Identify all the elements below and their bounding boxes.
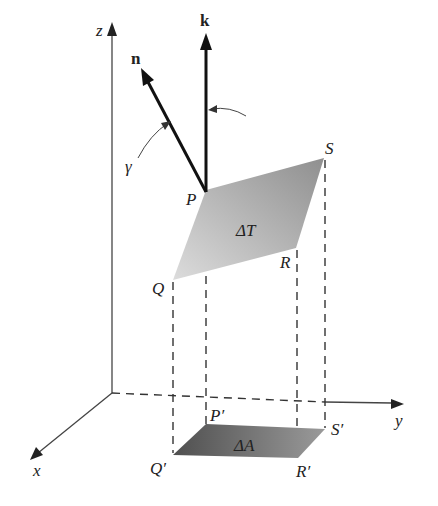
projection-label: ΔA <box>234 437 254 454</box>
y-axis-solid <box>325 402 392 403</box>
gamma-angle-label: γ <box>125 158 132 175</box>
k-arc-arrowhead <box>208 105 217 113</box>
k-vector-label: k <box>200 12 209 29</box>
k-vector-arrowhead <box>200 33 212 50</box>
x-axis-label: x <box>33 462 41 479</box>
vertex-label-s: S <box>325 140 334 157</box>
x-axis-arrowhead <box>30 447 43 460</box>
y-axis-dashed <box>112 393 325 402</box>
y-axis-label: y <box>395 412 403 429</box>
surface-patch-delta-t <box>173 158 324 280</box>
vertex-label-r-prime: R′ <box>296 463 310 480</box>
vertex-label-s-prime: S′ <box>331 421 343 438</box>
y-axis-arrowhead <box>391 399 404 409</box>
normal-vector-label: n <box>131 50 140 67</box>
surface-patch-label: ΔT <box>236 222 255 239</box>
n-vector-arrowhead <box>141 68 154 86</box>
z-axis-arrowhead <box>107 22 117 36</box>
angle-indicators <box>138 105 246 158</box>
surface-projection-diagram <box>0 0 438 506</box>
vertex-label-p-prime: P′ <box>210 407 224 424</box>
gamma-arc <box>138 123 168 158</box>
vertex-label-q: Q <box>152 280 164 297</box>
vectors <box>141 33 212 192</box>
z-axis-label: z <box>96 22 103 39</box>
vertex-label-r: R <box>280 254 290 271</box>
n-vector <box>148 82 206 192</box>
x-axis <box>38 393 112 453</box>
vertex-label-p: P <box>186 191 196 208</box>
vertex-label-q-prime: Q′ <box>150 460 166 477</box>
